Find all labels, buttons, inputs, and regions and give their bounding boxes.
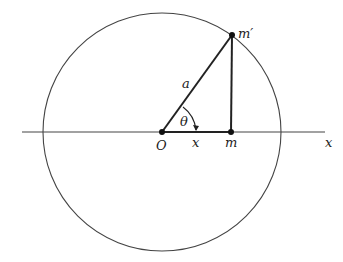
label-segment-x: x bbox=[192, 135, 200, 150]
radius-segment-a bbox=[162, 35, 232, 132]
label-radius-a: a bbox=[182, 76, 190, 91]
unit-circle-diagram: O x m m′ a θ x bbox=[0, 0, 343, 262]
angle-arrowhead-icon bbox=[193, 125, 199, 131]
vertical-segment bbox=[231, 35, 232, 132]
label-angle-theta: θ bbox=[180, 114, 188, 129]
label-origin: O bbox=[156, 138, 167, 153]
label-axis-x: x bbox=[325, 135, 333, 150]
point-m-prime bbox=[229, 32, 235, 38]
label-foot-m: m bbox=[225, 135, 237, 150]
label-m-prime: m′ bbox=[238, 26, 253, 41]
point-O bbox=[159, 129, 165, 135]
